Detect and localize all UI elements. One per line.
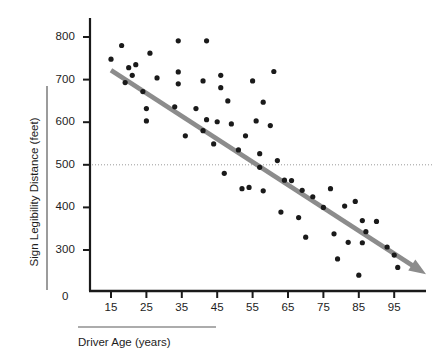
x-tick-label: 45 [204, 301, 230, 313]
data-point [296, 215, 301, 220]
data-point [360, 240, 365, 245]
y-tick-label: 300 [41, 243, 75, 255]
data-point [176, 69, 181, 74]
data-point [204, 117, 209, 122]
data-point [200, 128, 205, 133]
data-point [289, 178, 294, 183]
data-point [144, 118, 149, 123]
trend-line [111, 70, 426, 274]
data-point [204, 38, 209, 43]
data-point [356, 273, 361, 278]
data-point [300, 188, 305, 193]
data-point [236, 147, 241, 152]
data-point [133, 62, 138, 67]
y-tick-label: 600 [41, 115, 75, 127]
data-point [254, 118, 259, 123]
y-tick-label: 800 [41, 30, 75, 42]
x-tick-label: 95 [381, 301, 407, 313]
data-point [176, 38, 181, 43]
data-point [243, 133, 248, 138]
y-tick-label: 700 [41, 73, 75, 85]
x-axis-title: Driver Age (years) [78, 336, 171, 348]
y-axis-zero-label: 0 [62, 290, 68, 302]
data-point [229, 121, 234, 126]
data-point [200, 78, 205, 83]
data-point [321, 205, 326, 210]
x-tick-label: 55 [240, 301, 266, 313]
data-point [374, 219, 379, 224]
data-point [211, 141, 216, 146]
data-point [257, 165, 262, 170]
scatter-plot-figure: Sign Legibility Distance (feet) 0 Driver… [0, 0, 438, 362]
data-point [335, 256, 340, 261]
data-point [239, 186, 244, 191]
data-point [215, 119, 220, 124]
x-tick-label: 65 [275, 301, 301, 313]
x-tick-label: 15 [98, 301, 124, 313]
x-tick-label: 25 [133, 301, 159, 313]
data-points-group [108, 38, 400, 278]
data-point [268, 123, 273, 128]
data-point [126, 65, 131, 70]
data-point [130, 73, 135, 78]
data-point [144, 106, 149, 111]
data-point [193, 106, 198, 111]
data-point [360, 218, 365, 223]
data-point [310, 194, 315, 199]
data-point [328, 186, 333, 191]
data-point [140, 89, 145, 94]
data-point [257, 151, 262, 156]
x-tick-label: 85 [346, 301, 372, 313]
data-point [303, 235, 308, 240]
data-point [183, 133, 188, 138]
data-point [346, 240, 351, 245]
data-point [123, 80, 128, 85]
data-point [154, 75, 159, 80]
data-point [119, 43, 124, 48]
y-tick-label: 400 [41, 200, 75, 212]
data-point [331, 231, 336, 236]
data-point [271, 69, 276, 74]
data-point [342, 204, 347, 209]
data-point [261, 100, 266, 105]
data-point [353, 199, 358, 204]
data-point [176, 81, 181, 86]
data-point [218, 85, 223, 90]
data-point [363, 229, 368, 234]
data-point [278, 209, 283, 214]
data-point [250, 78, 255, 83]
axes-group [83, 18, 426, 298]
data-point [218, 73, 223, 78]
data-point [385, 244, 390, 249]
x-tick-label: 35 [169, 301, 195, 313]
data-point [395, 265, 400, 270]
data-point [225, 98, 230, 103]
data-point [261, 188, 266, 193]
data-point [108, 57, 113, 62]
data-point [222, 171, 227, 176]
data-point [392, 253, 397, 258]
data-point [282, 178, 287, 183]
data-point [147, 51, 152, 56]
data-point [172, 104, 177, 109]
data-point [275, 158, 280, 163]
y-tick-label: 500 [41, 158, 75, 170]
x-tick-label: 75 [310, 301, 336, 313]
y-axis-title: Sign Legibility Distance (feet) [28, 92, 40, 292]
data-point [246, 185, 251, 190]
